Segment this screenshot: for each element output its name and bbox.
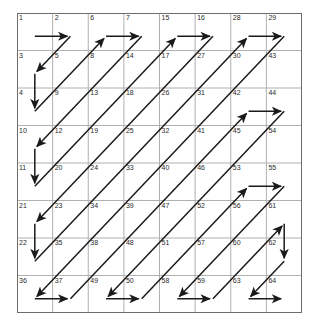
cell-index-label: 7 (126, 14, 130, 22)
grid-cell: 2 (53, 13, 89, 51)
grid-cell: 35 (53, 238, 89, 276)
grid-cell: 30 (231, 51, 267, 89)
cell-index-label: 19 (90, 127, 98, 135)
cell-index-label: 38 (90, 239, 98, 247)
cell-index-label: 35 (55, 239, 63, 247)
grid-cell: 4 (17, 88, 53, 126)
grid-cell: 11 (17, 163, 53, 201)
grid-cell: 21 (17, 201, 53, 239)
cell-index-label: 39 (126, 202, 134, 210)
grid-cell: 63 (231, 276, 267, 314)
cell-index-label: 3 (19, 52, 23, 60)
cell-index-label: 42 (233, 89, 241, 97)
cell-index-label: 47 (162, 202, 170, 210)
grid-cell: 20 (53, 163, 89, 201)
cell-index-label: 49 (90, 277, 98, 285)
cell-index-label: 9 (55, 89, 59, 97)
grid-cell: 43 (266, 51, 302, 89)
cell-index-label: 23 (55, 202, 63, 210)
cell-index-label: 52 (197, 202, 205, 210)
cell-index-label: 12 (55, 127, 63, 135)
cell-index-label: 48 (126, 239, 134, 247)
cell-index-label: 14 (126, 52, 134, 60)
grid-cell: 39 (124, 201, 160, 239)
grid-cell: 16 (195, 13, 231, 51)
grid-cell: 54 (266, 126, 302, 164)
cell-index-label: 1 (19, 14, 23, 22)
grid-cell: 13 (88, 88, 124, 126)
grid-cell: 42 (231, 88, 267, 126)
grid-cell: 8 (88, 51, 124, 89)
grid-cell: 34 (88, 201, 124, 239)
grid-cell: 33 (124, 163, 160, 201)
cell-index-label: 24 (90, 164, 98, 172)
grid-cell: 28 (231, 13, 267, 51)
grid-cell: 57 (195, 238, 231, 276)
cell-index-label: 10 (19, 127, 27, 135)
grid-cell: 47 (160, 201, 196, 239)
grid-cell: 12 (53, 126, 89, 164)
zigzag-grid: 1267151628293581417273043491318263142441… (17, 13, 302, 313)
grid-cell: 53 (231, 163, 267, 201)
cell-index-label: 17 (162, 52, 170, 60)
grid-cell: 45 (231, 126, 267, 164)
cell-index-label: 6 (90, 14, 94, 22)
grid-cell: 44 (266, 88, 302, 126)
cell-index-label: 33 (126, 164, 134, 172)
cell-index-label: 28 (233, 14, 241, 22)
cell-index-label: 61 (268, 202, 276, 210)
cell-index-label: 57 (197, 239, 205, 247)
figure-canvas: 1267151628293581417273043491318263142441… (0, 0, 319, 326)
grid-cell: 15 (160, 13, 196, 51)
cell-index-label: 51 (162, 239, 170, 247)
grid-cell: 37 (53, 276, 89, 314)
grid-cell: 36 (17, 276, 53, 314)
cell-index-label: 4 (19, 89, 23, 97)
grid-cell: 10 (17, 126, 53, 164)
cell-index-label: 20 (55, 164, 63, 172)
cell-index-label: 56 (233, 202, 241, 210)
cell-index-label: 44 (268, 89, 276, 97)
cell-index-label: 13 (90, 89, 98, 97)
cell-index-label: 21 (19, 202, 27, 210)
grid-cell: 24 (88, 163, 124, 201)
grid-cell: 31 (195, 88, 231, 126)
grid-cell: 50 (124, 276, 160, 314)
cell-index-label: 36 (19, 277, 27, 285)
cell-index-label: 46 (197, 164, 205, 172)
cell-index-label: 34 (90, 202, 98, 210)
cell-index-label: 58 (162, 277, 170, 285)
grid-cell: 1 (17, 13, 53, 51)
cell-index-label: 18 (126, 89, 134, 97)
cell-index-label: 26 (162, 89, 170, 97)
cell-index-label: 40 (162, 164, 170, 172)
grid-cell: 5 (53, 51, 89, 89)
cell-index-label: 16 (197, 14, 205, 22)
cell-container: 1267151628293581417273043491318263142441… (17, 13, 302, 313)
cell-index-label: 11 (19, 164, 26, 172)
grid-cell: 41 (195, 126, 231, 164)
grid-cell: 14 (124, 51, 160, 89)
grid-cell: 26 (160, 88, 196, 126)
grid-cell: 49 (88, 276, 124, 314)
cell-index-label: 31 (197, 89, 205, 97)
grid-cell: 56 (231, 201, 267, 239)
cell-index-label: 45 (233, 127, 241, 135)
grid-cell: 51 (160, 238, 196, 276)
grid-cell: 17 (160, 51, 196, 89)
cell-index-label: 8 (90, 52, 94, 60)
grid-cell: 3 (17, 51, 53, 89)
grid-cell: 29 (266, 13, 302, 51)
grid-cell: 9 (53, 88, 89, 126)
cell-index-label: 32 (162, 127, 170, 135)
grid-cell: 40 (160, 163, 196, 201)
cell-index-label: 2 (55, 14, 59, 22)
grid-cell: 18 (124, 88, 160, 126)
grid-cell: 46 (195, 163, 231, 201)
grid-cell: 6 (88, 13, 124, 51)
cell-index-label: 59 (197, 277, 205, 285)
grid-cell: 19 (88, 126, 124, 164)
cell-index-label: 43 (268, 52, 276, 60)
cell-index-label: 63 (233, 277, 241, 285)
cell-index-label: 62 (268, 239, 276, 247)
